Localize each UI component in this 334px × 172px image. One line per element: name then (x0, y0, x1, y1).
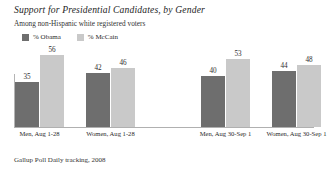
bar-value-label: 40 (209, 67, 216, 75)
x-axis-baseline (14, 127, 314, 128)
source-note: Gallup Poll Daily tracking, 2008 (14, 156, 106, 164)
legend-item-obama[interactable]: % Obama (22, 33, 61, 41)
bar-value-label: 56 (48, 46, 55, 54)
bar-obama[interactable]: 42 (86, 50, 110, 127)
bar-obama[interactable]: 40 (201, 50, 225, 127)
legend-label: % McCain (88, 33, 118, 41)
category-label: Men, Aug 1-28 (10, 130, 70, 138)
bar-rect (15, 82, 39, 127)
chart-legend: % Obama% McCain (22, 33, 118, 41)
bar-group: 4053 (201, 50, 250, 127)
bar-rect (40, 55, 64, 127)
bar-mccain[interactable]: 56 (40, 50, 64, 127)
bar-value-label: 53 (234, 50, 241, 58)
bar-mccain[interactable]: 53 (226, 50, 250, 127)
bar-value-label: 46 (119, 59, 126, 67)
bar-rect (111, 68, 135, 127)
bar-mccain[interactable]: 48 (297, 50, 321, 127)
bar-mccain[interactable]: 46 (111, 50, 135, 127)
bar-rect (86, 73, 110, 127)
bar-group: 4448 (272, 50, 321, 127)
legend-item-mccain[interactable]: % McCain (77, 33, 118, 41)
bar-rect (201, 76, 225, 127)
bar-group: 3556 (15, 50, 64, 127)
category-label: Women, Aug 1-28 (81, 130, 141, 138)
category-label: Men, Aug 30-Sep 1 (196, 130, 256, 138)
plot-area: 3556424640534448 (14, 50, 330, 128)
bar-groups: 3556424640534448 (15, 50, 321, 127)
chart-title: Support for Presidential Candidates, by … (14, 4, 205, 15)
bar-group: 4246 (86, 50, 135, 127)
bar-rect (272, 71, 296, 127)
bar-rect (226, 59, 250, 127)
chart-subtitle: Among non-Hispanic white registered vote… (14, 19, 145, 28)
legend-label: % Obama (33, 33, 61, 41)
bar-value-label: 48 (305, 56, 312, 64)
bar-value-label: 42 (94, 64, 101, 72)
category-label: Women, Aug 30-Sep 1 (267, 130, 327, 138)
bar-value-label: 35 (23, 73, 30, 81)
legend-swatch-icon (77, 34, 84, 41)
bar-value-label: 44 (280, 62, 287, 70)
legend-swatch-icon (22, 34, 29, 41)
bar-obama[interactable]: 44 (272, 50, 296, 127)
chart-figure: Support for Presidential Candidates, by … (0, 0, 334, 172)
bar-rect (297, 65, 321, 127)
bar-obama[interactable]: 35 (15, 50, 39, 127)
